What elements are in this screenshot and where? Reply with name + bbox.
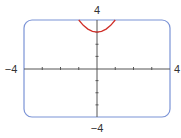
- y-max-label: 4: [94, 4, 100, 16]
- x-min-label: −4: [5, 63, 18, 75]
- y-min-label: −4: [91, 122, 104, 134]
- x-max-label: 4: [174, 63, 180, 75]
- graph: 4 −4 −4 4: [0, 0, 181, 138]
